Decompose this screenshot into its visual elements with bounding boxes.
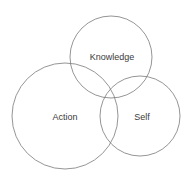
label-action: Action [52,112,77,122]
label-knowledge: Knowledge [90,52,135,62]
venn-diagram: Knowledge Action Self [0,0,190,178]
label-self: Self [134,112,150,122]
